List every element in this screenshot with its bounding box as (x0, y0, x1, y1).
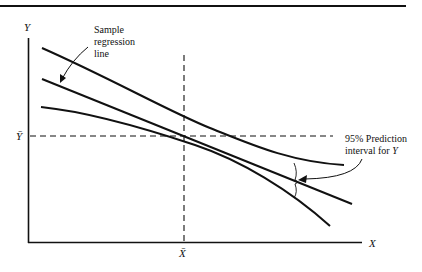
regression-prediction-diagram: Y X Ȳ X̄ Sample regression line 95% Pred… (0, 0, 422, 272)
sample-regression-line (42, 79, 352, 204)
x-axis-label: X (368, 237, 377, 249)
prediction-interval-variable: Y (392, 145, 399, 156)
x-mean-label: X̄ (178, 247, 187, 259)
y-axis-label: Y (24, 21, 32, 33)
regression-line-arrowhead (60, 74, 66, 83)
y-mean-label: Ȳ (16, 130, 24, 142)
upper-prediction-band (42, 48, 344, 165)
regression-line-annotation: Sample regression line (94, 24, 138, 59)
prediction-interval-text: interval for (345, 145, 392, 156)
lower-prediction-band (41, 107, 330, 226)
prediction-interval-annotation: 95% Prediction interval for Y (345, 133, 409, 156)
